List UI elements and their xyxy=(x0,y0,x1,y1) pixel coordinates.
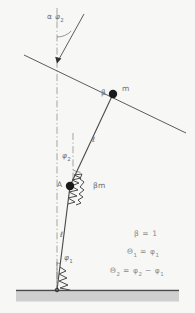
equation-beta-value: β = 1 xyxy=(134,230,158,238)
ground xyxy=(16,291,179,302)
upper-rod-length-label: ℓ xyxy=(92,136,95,144)
alpha-phi2-label: α φ2 xyxy=(47,13,64,23)
phi1-label: φ1 xyxy=(64,254,73,264)
theta2-tail-sub: 1 xyxy=(160,271,164,277)
theta1-equals: = xyxy=(137,247,150,256)
phi-subscript: 2 xyxy=(60,17,64,23)
phi2-label: φ2 xyxy=(62,152,71,162)
mechanics-figure: α φ2 φ2 φ1 ℓ ℓ A β m βm β = 1 Θ1 = φ1 Θ2… xyxy=(0,0,195,313)
theta2-equals: = xyxy=(120,266,133,275)
phi2-subscript: 2 xyxy=(67,156,71,162)
alpha-angle-arc xyxy=(57,31,71,37)
equation-theta2: Θ2 = φ2 − φ1 xyxy=(110,267,164,277)
lower-rod-length-label: ℓ xyxy=(60,231,63,239)
mass-dot-a xyxy=(66,182,74,190)
equation-theta1: Θ1 = φ1 xyxy=(127,248,159,258)
theta2-minus: − xyxy=(142,266,155,275)
arrow-head xyxy=(55,57,61,64)
theta1-rhs-sub: 1 xyxy=(155,252,159,258)
beta-prefix-label: β xyxy=(101,89,106,97)
diagram-canvas xyxy=(0,0,195,313)
lower-spring-zigzag xyxy=(59,267,70,290)
point-a-label: A xyxy=(57,181,62,189)
ground-fill xyxy=(16,292,179,302)
phi1-subscript: 1 xyxy=(69,258,73,264)
mass-dot-upper xyxy=(109,90,117,98)
mass-lower-label: βm xyxy=(93,182,106,190)
mass-upper-label: m xyxy=(122,85,130,93)
lower-torsion-spring xyxy=(59,267,70,290)
